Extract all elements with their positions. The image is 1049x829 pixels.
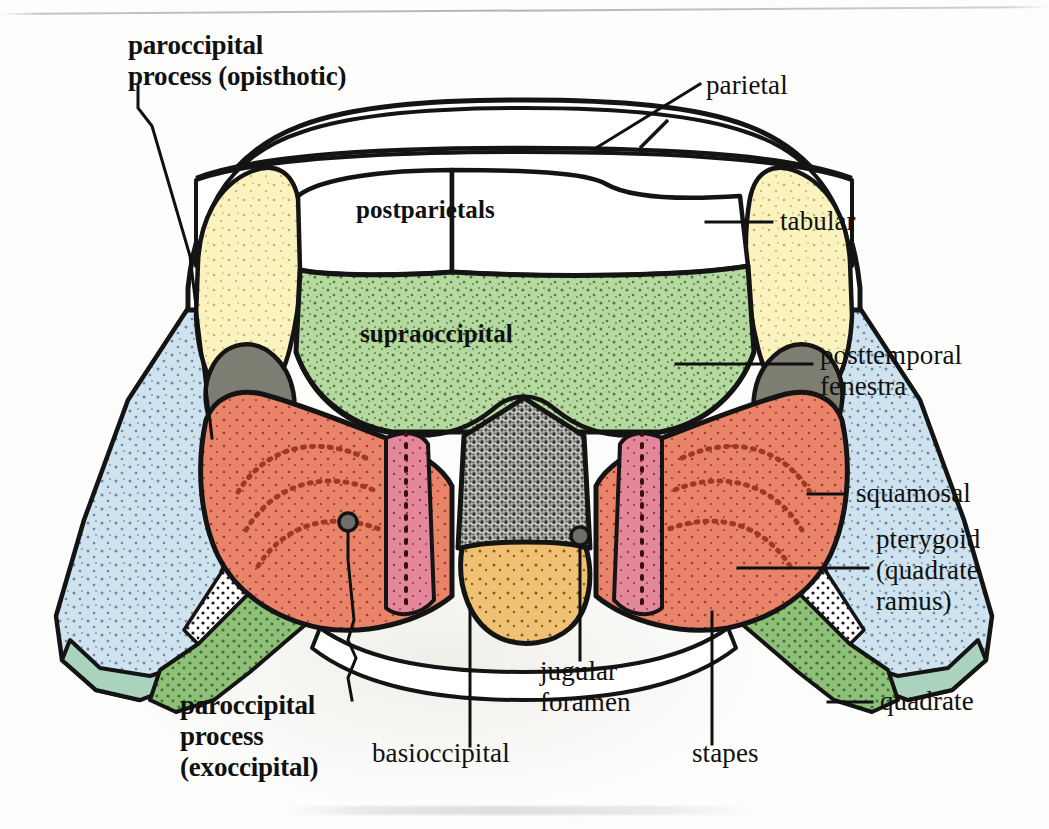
exoccipital-left-shape [386, 433, 434, 614]
label-pterygoid: pterygoid (quadrate ramus) [876, 524, 980, 616]
scan-smudge [285, 806, 755, 815]
label-paroccipital-process-exoccipital: paroccipital process (exoccipital) [180, 690, 318, 782]
label-postparietals: postparietals [356, 196, 495, 225]
label-quadrate: quadrate [880, 686, 974, 717]
label-squamosal: squamosal [856, 478, 971, 509]
label-posttemporal-fenestra: posttemporal fenestra [820, 340, 962, 402]
label-basioccipital: basioccipital [372, 738, 510, 769]
basioccipital-shape [461, 542, 590, 643]
jugular-foramen-right-shape [571, 527, 589, 545]
label-stapes: stapes [692, 738, 759, 769]
figure-canvas: paroccipital process (opisthotic) pariet… [0, 0, 1049, 829]
label-parietal: parietal [706, 70, 788, 101]
exoccipital-right-shape [614, 433, 662, 614]
label-tabular: tabular [780, 206, 856, 237]
label-supraoccipital: supraoccipital [360, 320, 513, 349]
label-paroccipital-process-opisthotic: paroccipital process (opisthotic) [128, 30, 346, 92]
label-jugular-foramen: jugular foramen [540, 656, 631, 718]
jugular-foramen-left-shape [339, 513, 357, 531]
